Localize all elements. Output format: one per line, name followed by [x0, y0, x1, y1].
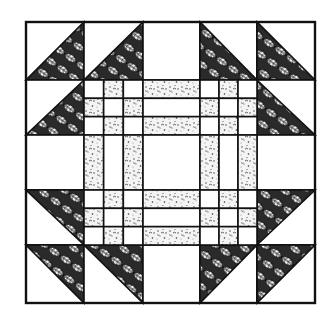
rail-strip [84, 135, 104, 190]
nine-patch-square [219, 98, 238, 116]
rail-strip [143, 117, 200, 135]
nine-patch-square [219, 208, 238, 226]
nine-patch-square [123, 208, 143, 226]
nine-patch-square [200, 208, 219, 226]
nine-patch-square [219, 227, 238, 245]
rail-strip [104, 135, 124, 190]
nine-patch-square [200, 80, 219, 98]
nine-patch-square [200, 227, 219, 245]
rail-strip [143, 98, 200, 116]
nine-patch-square [104, 190, 124, 208]
rail-strip [238, 135, 257, 190]
nine-patch-square [123, 190, 143, 208]
nine-patch-square [238, 208, 257, 226]
nine-patch-square [104, 80, 124, 98]
nine-patch-square [200, 190, 219, 208]
nine-patch-square [123, 117, 143, 135]
nine-patch-square [238, 227, 257, 245]
nine-patch-square [200, 117, 219, 135]
rail-strip [123, 135, 143, 190]
border-cell [26, 135, 84, 190]
border-cell [143, 22, 200, 80]
border-cell [143, 245, 200, 303]
nine-patch-square [123, 98, 143, 116]
rail-strip [219, 135, 238, 190]
rail-strip [143, 227, 200, 245]
nine-patch-square [238, 117, 257, 135]
nine-patch-square [104, 98, 124, 116]
nine-patch-square [238, 190, 257, 208]
nine-patch-square [104, 117, 124, 135]
nine-patch-square [219, 80, 238, 98]
quilt-block-drawing [0, 0, 333, 327]
rail-strip [143, 208, 200, 226]
nine-patch-square [219, 117, 238, 135]
nine-patch-square [84, 190, 104, 208]
nine-patch-square [84, 98, 104, 116]
nine-patch-square [84, 208, 104, 226]
nine-patch-square [238, 98, 257, 116]
nine-patch-square [104, 227, 124, 245]
rail-strip [143, 190, 200, 208]
nine-patch-square [84, 80, 104, 98]
rail-strip [143, 80, 200, 98]
nine-patch-square [123, 80, 143, 98]
nine-patch-square [238, 80, 257, 98]
nine-patch-square [104, 208, 124, 226]
nine-patch-square [84, 117, 104, 135]
nine-patch-square [219, 190, 238, 208]
nine-patch-square [200, 98, 219, 116]
nine-patch-square [123, 227, 143, 245]
border-cell [257, 135, 315, 190]
center-square [143, 135, 200, 190]
nine-patch-square [84, 227, 104, 245]
rail-strip [200, 135, 219, 190]
